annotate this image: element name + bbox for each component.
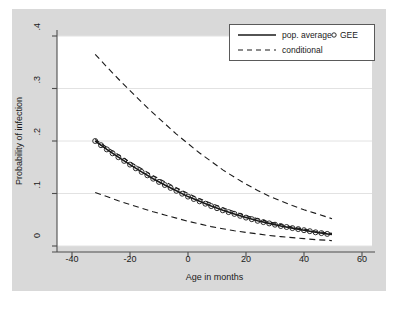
legend-label-conditional: conditional bbox=[282, 45, 323, 55]
xtick-label-4: 40 bbox=[289, 254, 319, 264]
ytick-label-3: .3 bbox=[32, 76, 42, 100]
ytick-label-0: 0 bbox=[32, 233, 42, 257]
legend-label-gee: GEE bbox=[340, 30, 358, 40]
chart-legend: pop. average GEE conditional bbox=[229, 24, 375, 61]
xtick-label-3: 20 bbox=[231, 254, 261, 264]
xtick-label-0: -40 bbox=[57, 254, 87, 264]
ytick-label-2: .2 bbox=[32, 128, 42, 152]
legend-circle-marker-icon bbox=[332, 33, 336, 37]
chart-figure: .4 .3 .2 .1 0 Probability of infection -… bbox=[0, 0, 409, 309]
ytick-label-1: .1 bbox=[32, 181, 42, 205]
xtick-label-1: -20 bbox=[115, 254, 145, 264]
legend-label-pop-average: pop. average bbox=[282, 30, 332, 40]
xtick-label-2: 0 bbox=[173, 254, 203, 264]
y-axis-title: Probability of infection bbox=[14, 81, 24, 201]
xtick-label-5: 60 bbox=[347, 254, 377, 264]
y-axis-ticks bbox=[52, 36, 57, 246]
x-axis-title: Age in months bbox=[57, 272, 372, 282]
ytick-label-4: .4 bbox=[32, 23, 42, 47]
